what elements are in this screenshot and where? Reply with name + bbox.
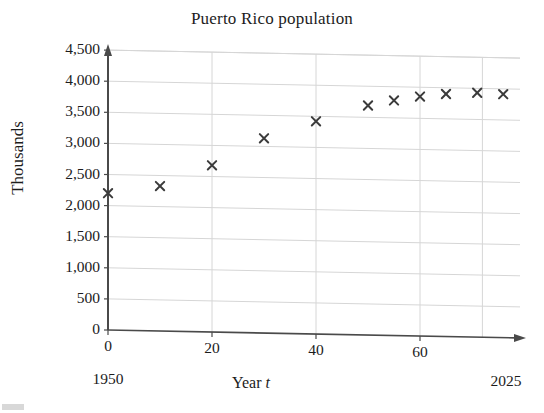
data-point-marker [390,96,398,104]
data-point-marker [156,182,164,190]
y-tick-label: 4,000 [44,71,100,89]
data-point-marker [442,90,450,98]
gridline-horizontal [108,81,520,89]
gridlines [108,50,520,307]
x-tick-label: 40 [291,341,341,359]
gridline-horizontal [108,299,520,307]
y-tick-label: 2,500 [44,165,100,183]
data-point-marker [499,90,507,98]
chart-figure: Puerto Rico population Thousands Year t … [0,0,544,413]
page-artifact [2,404,24,410]
data-point-marker [364,101,372,109]
x-axis-line [108,330,515,338]
y-tick-label: 3,000 [44,133,100,151]
data-point-marker [473,89,481,97]
x-tick-label: 60 [395,343,445,361]
axes [104,44,526,342]
y-tick-label: 1,500 [44,227,100,245]
axis-ticks [104,50,420,341]
x-tick-label: 0 [83,337,133,355]
data-point-marker [260,134,268,142]
gridline-horizontal [108,206,520,214]
x-tick-label: 20 [187,339,237,357]
gridline-horizontal [108,143,520,151]
x-axis-arrowhead [514,334,526,342]
y-tick-label: 3,500 [44,102,100,120]
y-tick-label: 1,000 [44,258,100,276]
y-tick-label: 4,500 [44,40,100,58]
y-tick-label: 0 [44,320,100,338]
y-tick-label: 500 [44,289,100,307]
gridline-horizontal [108,237,520,245]
vertical-gridlines [108,50,520,337]
gridline-horizontal [108,175,520,183]
gridline-top [108,50,520,58]
gridline-horizontal [108,268,520,276]
y-tick-label: 2,000 [44,196,100,214]
